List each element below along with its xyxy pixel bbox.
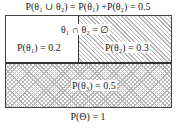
theta3-probability-label: P(θ₃) = 0.5: [71, 80, 117, 91]
union-probability-title: P(θ₁ ∪ θ₂) = P(θ₁) +P(θ₂) = 0.5: [0, 1, 176, 13]
region-theta1: [6, 16, 78, 62]
theta2-probability-label: P(θ₂) = 0.3: [104, 42, 150, 53]
sample-space-box: θ₁ ∩ θ₂ = ∅ P(θ₁) = 0.2 P(θ₂) = 0.3 P(θ₃…: [5, 15, 172, 108]
intersection-empty-label: θ₁ ∩ θ₂ = ∅: [60, 24, 110, 35]
total-probability-label: P(Θ) = 1: [0, 111, 176, 123]
theta1-probability-label: P(θ₁) = 0.2: [17, 42, 61, 53]
region-theta2-hatched: [79, 16, 171, 62]
